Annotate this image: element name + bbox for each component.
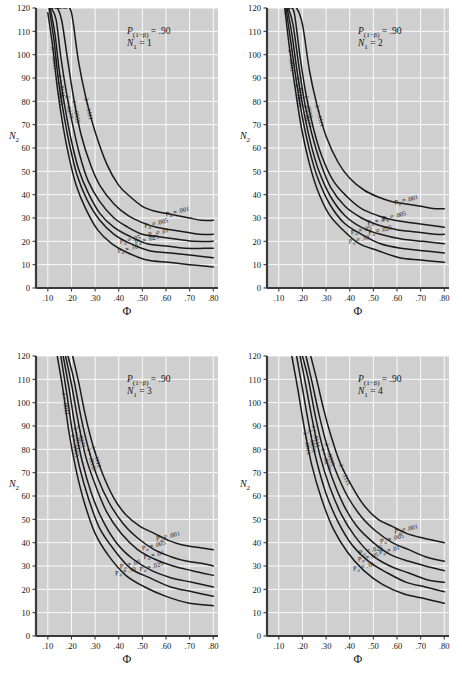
x-tick-label: .10: [273, 293, 284, 303]
y-axis-label: N2: [239, 130, 251, 144]
y-axis-label: N2: [239, 478, 251, 492]
x-axis-label: Φ: [123, 652, 132, 666]
y-tick-label: 0: [257, 283, 261, 293]
y-tick-label: 100: [17, 50, 30, 60]
x-tick-label: .70: [415, 293, 426, 303]
y-tick-label: 80: [21, 97, 30, 107]
y-tick-label: 80: [21, 445, 30, 455]
x-axis-label: Φ: [123, 304, 132, 318]
y-tick-label: 20: [252, 585, 261, 595]
x-tick-label: .50: [137, 641, 148, 651]
y-tick-label: 60: [21, 143, 30, 153]
y-tick-label: 100: [248, 50, 261, 60]
x-tick-label: .80: [208, 641, 219, 651]
x-tick-label: .80: [439, 293, 450, 303]
y-tick-label: 110: [248, 27, 261, 37]
x-tick-label: .20: [66, 641, 77, 651]
y-tick-label: 0: [26, 631, 30, 641]
x-tick-label: .60: [392, 293, 403, 303]
y-tick-label: 70: [252, 468, 261, 478]
figure-sample-size-charts: 0102030405060708090100110120.10.20.30.40…: [0, 0, 462, 696]
chart-panel-n1-3: 0102030405060708090100110120.10.20.30.40…: [0, 348, 231, 696]
y-tick-label: 70: [252, 120, 261, 130]
y-tick-label: 0: [257, 631, 261, 641]
y-tick-label: 30: [21, 213, 30, 223]
y-tick-label: 10: [252, 260, 261, 270]
y-tick-label: 30: [21, 561, 30, 571]
panel-svg-3: 0102030405060708090100110120.10.20.30.40…: [0, 348, 231, 696]
y-tick-label: 100: [248, 398, 261, 408]
y-tick-label: 10: [21, 260, 30, 270]
y-tick-label: 60: [252, 491, 261, 501]
chart-panel-n1-1: 0102030405060708090100110120.10.20.30.40…: [0, 0, 231, 348]
y-tick-label: 50: [21, 515, 30, 525]
x-tick-label: .40: [344, 641, 355, 651]
y-tick-label: 50: [21, 167, 30, 177]
chart-panel-n1-2: 0102030405060708090100110120.10.20.30.40…: [231, 0, 462, 348]
x-tick-label: .70: [184, 641, 195, 651]
y-axis-label: N2: [8, 130, 20, 144]
panel-svg-4: 0102030405060708090100110120.10.20.30.40…: [231, 348, 462, 696]
y-tick-label: 40: [21, 538, 30, 548]
y-tick-label: 20: [252, 237, 261, 247]
x-tick-label: .40: [113, 293, 124, 303]
y-tick-label: 60: [21, 491, 30, 501]
y-tick-label: 30: [252, 213, 261, 223]
y-tick-label: 70: [21, 120, 30, 130]
y-tick-label: 110: [17, 375, 30, 385]
y-tick-label: 10: [252, 608, 261, 618]
x-tick-label: .80: [439, 641, 450, 651]
x-tick-label: .70: [415, 641, 426, 651]
x-tick-label: .30: [90, 641, 101, 651]
x-tick-label: .80: [208, 293, 219, 303]
y-tick-label: 60: [252, 143, 261, 153]
x-tick-label: .60: [161, 293, 172, 303]
x-axis-label: Φ: [354, 652, 363, 666]
x-tick-label: .20: [297, 641, 308, 651]
x-tick-label: .60: [161, 641, 172, 651]
x-axis-label: Φ: [354, 304, 363, 318]
y-tick-label: 50: [252, 167, 261, 177]
y-tick-label: 120: [17, 3, 30, 13]
chart-panel-n1-4: 0102030405060708090100110120.10.20.30.40…: [231, 348, 462, 696]
y-tick-label: 40: [252, 538, 261, 548]
y-tick-label: 30: [252, 561, 261, 571]
y-tick-label: 90: [252, 421, 261, 431]
y-tick-label: 90: [21, 421, 30, 431]
y-tick-label: 10: [21, 608, 30, 618]
y-tick-label: 90: [21, 73, 30, 83]
y-tick-label: 80: [252, 445, 261, 455]
x-tick-label: .50: [137, 293, 148, 303]
y-tick-label: 100: [17, 398, 30, 408]
x-tick-label: .10: [42, 641, 53, 651]
x-tick-label: .70: [184, 293, 195, 303]
x-tick-label: .50: [368, 293, 379, 303]
x-tick-label: .30: [90, 293, 101, 303]
x-tick-label: .10: [42, 293, 53, 303]
panel-svg-1: 0102030405060708090100110120.10.20.30.40…: [0, 0, 231, 348]
y-tick-label: 50: [252, 515, 261, 525]
x-tick-label: .20: [297, 293, 308, 303]
x-tick-label: .60: [392, 641, 403, 651]
panel-svg-2: 0102030405060708090100110120.10.20.30.40…: [231, 0, 462, 348]
x-tick-label: .30: [321, 293, 332, 303]
y-axis-label: N2: [8, 478, 20, 492]
x-tick-label: .40: [113, 641, 124, 651]
y-tick-label: 0: [26, 283, 30, 293]
y-tick-label: 40: [21, 190, 30, 200]
x-tick-label: .10: [273, 641, 284, 651]
y-tick-label: 110: [248, 375, 261, 385]
x-tick-label: .40: [344, 293, 355, 303]
x-tick-label: .50: [368, 641, 379, 651]
y-tick-label: 70: [21, 468, 30, 478]
y-tick-label: 120: [248, 351, 261, 361]
x-tick-label: .30: [321, 641, 332, 651]
y-tick-label: 90: [252, 73, 261, 83]
y-tick-label: 20: [21, 585, 30, 595]
y-tick-label: 120: [17, 351, 30, 361]
y-tick-label: 120: [248, 3, 261, 13]
y-tick-label: 110: [17, 27, 30, 37]
x-tick-label: .20: [66, 293, 77, 303]
y-tick-label: 40: [252, 190, 261, 200]
y-tick-label: 80: [252, 97, 261, 107]
